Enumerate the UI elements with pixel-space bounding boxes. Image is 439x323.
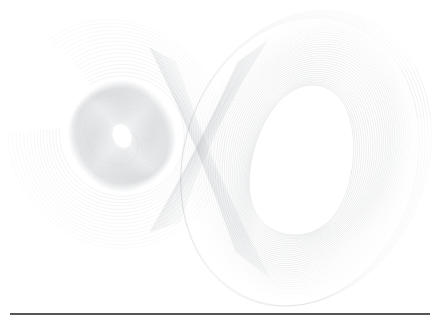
attractor-plot-area — [0, 0, 439, 323]
bottom-rule — [10, 313, 430, 315]
figure-container: Lorenz Attractor — [0, 0, 439, 323]
